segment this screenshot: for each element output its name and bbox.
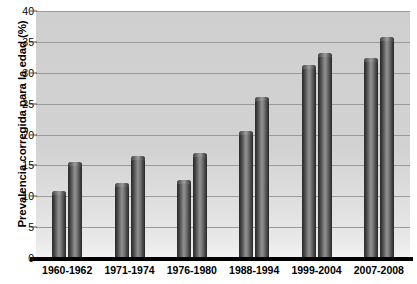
x-category-label: 1999-2004 xyxy=(291,264,341,276)
y-tick-mark xyxy=(30,72,37,73)
y-tick-mark xyxy=(30,134,37,135)
gridline xyxy=(36,104,410,105)
y-tick-mark xyxy=(30,227,37,228)
gridline xyxy=(36,42,410,43)
bar xyxy=(131,156,145,258)
x-category-label: 1976-1980 xyxy=(167,264,217,276)
plot-area xyxy=(36,11,410,258)
gridline xyxy=(36,11,410,12)
bar-chart-figure: Prevalencia corregida para la edad (%) 0… xyxy=(0,0,417,284)
bar xyxy=(255,97,269,258)
x-category-label: 1960-1962 xyxy=(42,264,92,276)
x-category-label: 1988-1994 xyxy=(229,264,279,276)
x-category-label: 1971-1974 xyxy=(104,264,154,276)
bar xyxy=(193,153,207,258)
gridline xyxy=(36,73,410,74)
gridline xyxy=(36,196,410,197)
bar xyxy=(318,53,332,258)
x-axis-line xyxy=(30,257,413,261)
y-tick-mark xyxy=(30,41,37,42)
x-category-label: 2007-2008 xyxy=(354,264,404,276)
bar xyxy=(302,65,316,258)
y-tick-mark xyxy=(30,196,37,197)
gridline xyxy=(36,165,410,166)
gridline xyxy=(36,135,410,136)
y-tick-mark xyxy=(30,103,37,104)
bar xyxy=(239,131,253,258)
bar xyxy=(68,162,82,258)
y-tick-mark xyxy=(30,11,37,12)
y-tick-mark xyxy=(30,165,37,166)
gridline xyxy=(36,227,410,228)
bar xyxy=(52,191,66,258)
bar xyxy=(380,37,394,258)
bar xyxy=(364,58,378,258)
bar xyxy=(115,183,129,258)
bar xyxy=(177,180,191,258)
